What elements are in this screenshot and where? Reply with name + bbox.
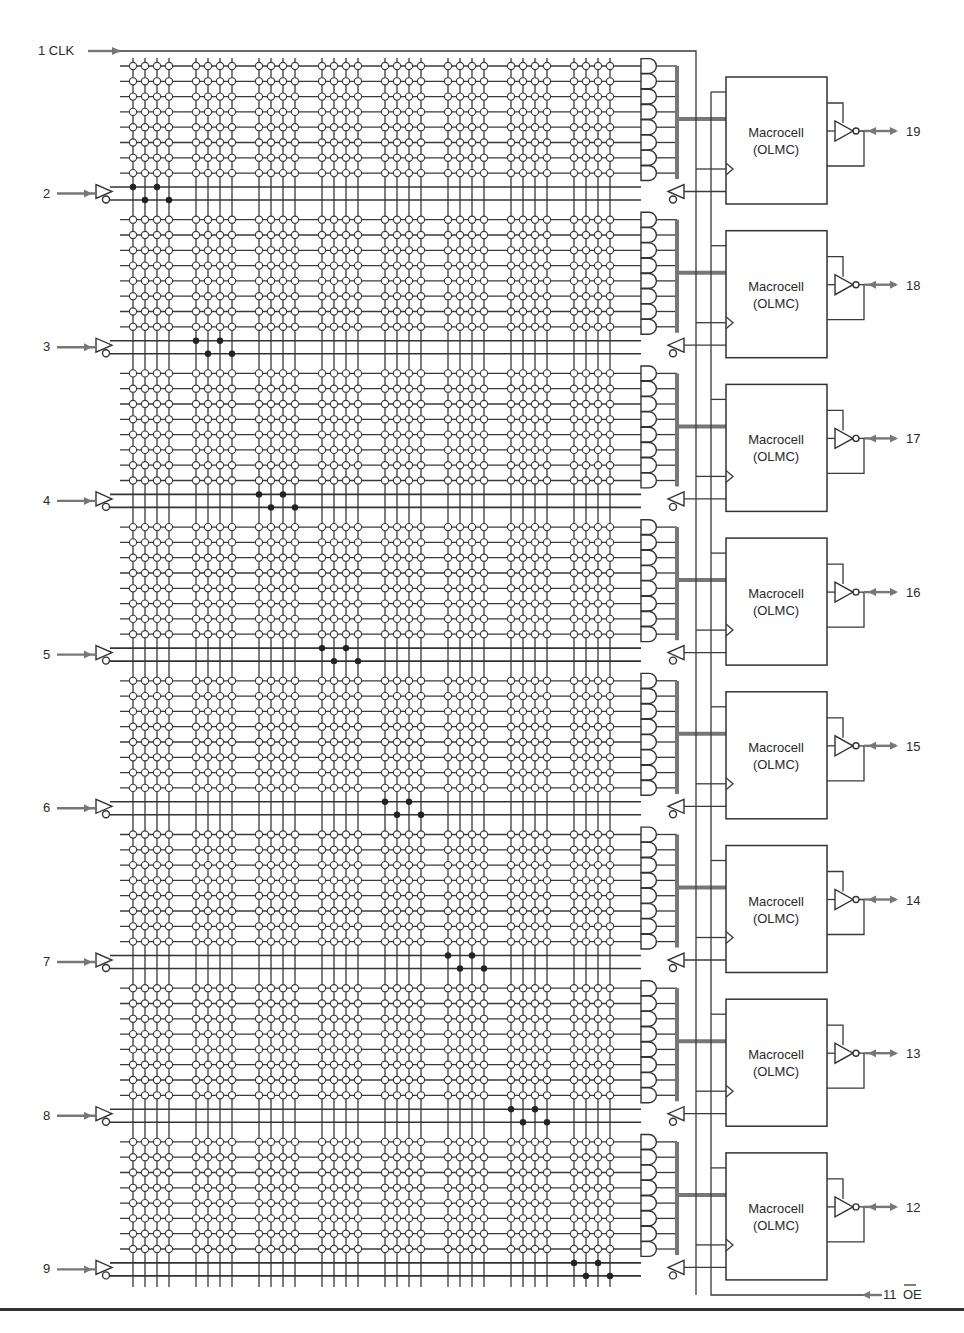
fuse <box>531 1092 538 1099</box>
fuse <box>267 615 274 622</box>
fuse <box>381 938 388 945</box>
fuse <box>456 1061 463 1068</box>
fuse <box>330 1169 337 1176</box>
fuse <box>192 262 199 269</box>
fuse <box>531 615 538 622</box>
fuse <box>417 1245 424 1252</box>
fuse <box>291 569 298 576</box>
arrow-left-icon <box>868 742 876 750</box>
input-arrow-icon <box>84 651 92 659</box>
fuse <box>531 907 538 914</box>
fuse <box>456 1169 463 1176</box>
fuse <box>279 1230 286 1237</box>
fuse <box>456 554 463 561</box>
fuse <box>468 524 475 531</box>
fuse <box>165 477 172 484</box>
fuse <box>318 416 325 423</box>
fuse <box>318 600 325 607</box>
fuse <box>582 1061 589 1068</box>
fuse <box>531 308 538 315</box>
fuse <box>279 600 286 607</box>
fuse <box>192 231 199 238</box>
fuse <box>393 293 400 300</box>
fuse <box>204 293 211 300</box>
fuse <box>519 400 526 407</box>
fuse <box>594 1061 601 1068</box>
fuse <box>582 524 589 531</box>
fuse <box>228 216 235 223</box>
fuse <box>129 1092 136 1099</box>
fuse <box>468 1138 475 1145</box>
fuse <box>330 477 337 484</box>
fuse <box>417 877 424 884</box>
fuse <box>342 1092 349 1099</box>
fuse <box>606 539 613 546</box>
fuse <box>165 1000 172 1007</box>
fuse <box>291 62 298 69</box>
fuse <box>342 1000 349 1007</box>
fuse <box>606 416 613 423</box>
fuse <box>141 154 148 161</box>
fuse <box>582 446 589 453</box>
fuse <box>444 154 451 161</box>
fuse <box>543 78 550 85</box>
fuse <box>468 846 475 853</box>
fuse <box>594 247 601 254</box>
fuse <box>480 600 487 607</box>
fuse <box>531 631 538 638</box>
fuse <box>606 923 613 930</box>
fuse <box>165 708 172 715</box>
fuse <box>468 62 475 69</box>
fuse <box>279 462 286 469</box>
fuse <box>507 462 514 469</box>
fuse <box>594 1092 601 1099</box>
fuse <box>216 938 223 945</box>
fuse <box>405 1061 412 1068</box>
fuse <box>519 923 526 930</box>
fuse <box>141 754 148 761</box>
fuse <box>204 554 211 561</box>
fuse <box>393 631 400 638</box>
fuse <box>543 216 550 223</box>
fuse <box>267 677 274 684</box>
fuse <box>129 708 136 715</box>
fuse <box>153 262 160 269</box>
fuse <box>570 1184 577 1191</box>
fuse <box>204 431 211 438</box>
fuse <box>318 231 325 238</box>
fuse <box>570 1230 577 1237</box>
output-inverter-bubble <box>853 1050 859 1056</box>
fuse <box>129 615 136 622</box>
fuse <box>267 277 274 284</box>
fuse <box>192 1169 199 1176</box>
fuse <box>192 1215 199 1222</box>
fuse <box>480 78 487 85</box>
fuse <box>519 1200 526 1207</box>
fuse <box>279 1138 286 1145</box>
and-gate <box>641 105 656 120</box>
fuse <box>330 1046 337 1053</box>
fuse <box>342 600 349 607</box>
fuse <box>570 231 577 238</box>
fuse <box>480 892 487 899</box>
fuse <box>267 985 274 992</box>
fuse <box>519 754 526 761</box>
fuse <box>570 1092 577 1099</box>
fuse <box>279 416 286 423</box>
fuse <box>531 446 538 453</box>
fuse <box>468 784 475 791</box>
fuse <box>129 985 136 992</box>
fuse <box>381 615 388 622</box>
fuse <box>381 170 388 177</box>
fuse <box>582 846 589 853</box>
fuse <box>570 1000 577 1007</box>
fuse <box>342 1076 349 1083</box>
arrow-left-icon <box>868 281 876 289</box>
fuse <box>216 262 223 269</box>
inverter-bubble <box>103 503 110 510</box>
fuse <box>330 1230 337 1237</box>
fuse <box>204 1200 211 1207</box>
fuse <box>531 1076 538 1083</box>
fuse <box>417 1061 424 1068</box>
and-gate <box>641 858 656 873</box>
